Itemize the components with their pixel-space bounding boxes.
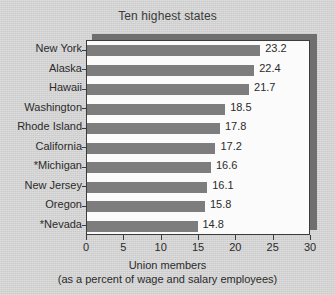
bar (87, 221, 198, 232)
x-axis-tick-label: 0 (83, 241, 89, 253)
bar-row: 16.6 (87, 158, 309, 178)
x-axis-caption: Union members (as a percent of wage and … (0, 258, 335, 286)
plot-area: 23.222.421.718.517.817.216.616.115.814.8 (86, 40, 310, 235)
y-axis-label: Oregon (0, 198, 82, 210)
bar (87, 45, 260, 56)
chart-title: Ten highest states (0, 9, 335, 23)
y-axis-label: New York (0, 42, 82, 54)
bar-row: 17.2 (87, 139, 309, 159)
bar-value-label: 22.4 (259, 62, 280, 74)
y-axis-label: New Jersey (0, 179, 82, 191)
bar (87, 201, 205, 212)
x-axis-tick (198, 235, 199, 240)
bar-row: 14.8 (87, 217, 309, 237)
bar-value-label: 23.2 (265, 42, 286, 54)
bar-value-label: 17.8 (225, 120, 246, 132)
y-axis-label: *Nevada (0, 218, 82, 230)
y-axis-label: California (0, 140, 82, 152)
y-axis-label: Rhode Island (0, 120, 82, 132)
chart-page: Ten highest states New YorkAlaskaHawaiiW… (0, 0, 335, 295)
bar (87, 65, 254, 76)
x-axis-tick-label: 25 (267, 241, 279, 253)
y-axis-label: Alaska (0, 62, 82, 74)
bar-value-label: 17.2 (220, 140, 241, 152)
bar-row: 21.7 (87, 80, 309, 100)
bar (87, 182, 207, 193)
bar-row: 15.8 (87, 197, 309, 217)
x-axis-tick-label: 20 (229, 241, 241, 253)
bar (87, 123, 220, 134)
bar-row: 16.1 (87, 178, 309, 198)
bar-row: 18.5 (87, 100, 309, 120)
bar-value-label: 18.5 (230, 101, 251, 113)
bar (87, 162, 211, 173)
bar-row: 22.4 (87, 61, 309, 81)
x-axis-tick-label: 10 (155, 241, 167, 253)
bar (87, 104, 225, 115)
x-axis-label-main: Union members (0, 258, 335, 272)
x-axis-tick (86, 235, 87, 240)
bar-rows: 23.222.421.718.517.817.216.616.115.814.8 (87, 41, 309, 234)
x-axis-tick (161, 235, 162, 240)
bar-value-label: 21.7 (254, 81, 275, 93)
y-axis-label: Washington (0, 101, 82, 113)
y-axis-category-labels: New YorkAlaskaHawaiiWashingtonRhode Isla… (0, 40, 82, 235)
bar-value-label: 16.1 (212, 179, 233, 191)
bar-value-label: 14.8 (203, 218, 224, 230)
bar-row: 23.2 (87, 41, 309, 61)
x-axis-tick (123, 235, 124, 240)
x-axis-tick-label: 30 (304, 241, 316, 253)
y-axis-label: *Michigan (0, 159, 82, 171)
x-axis-label-sub: (as a percent of wage and salary employe… (0, 272, 335, 286)
bar-row: 17.8 (87, 119, 309, 139)
x-axis-tick-label: 15 (192, 241, 204, 253)
bar-value-label: 15.8 (210, 198, 231, 210)
x-axis-tick (310, 235, 311, 240)
x-axis-tick (273, 235, 274, 240)
x-axis-ticks: 051015202530 (86, 235, 310, 255)
x-axis-tick-label: 5 (120, 241, 126, 253)
bar (87, 84, 249, 95)
y-axis-label: Hawaii (0, 81, 82, 93)
bar (87, 143, 215, 154)
bar-value-label: 16.6 (216, 159, 237, 171)
x-axis-tick (235, 235, 236, 240)
